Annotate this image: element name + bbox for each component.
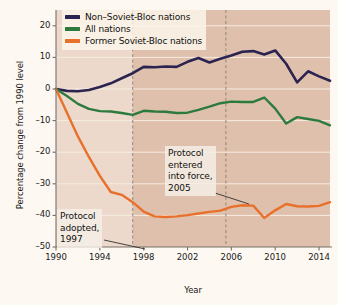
legend: Non–Soviet-Bloc nations All nations Form…	[62, 9, 206, 50]
x-tick-label: 2014	[299, 252, 338, 262]
y-tick-label: –20	[25, 146, 51, 156]
legend-swatch-former-soviet-bloc	[65, 39, 80, 43]
legend-item-non-soviet-bloc[interactable]: Non–Soviet-Bloc nations	[65, 11, 202, 23]
x-tick-label: 2010	[255, 252, 295, 262]
y-tick-label: –30	[25, 178, 51, 188]
legend-label-all-nations: All nations	[85, 24, 131, 34]
y-tick-label: –50	[25, 241, 51, 251]
y-tick-label: –10	[25, 115, 51, 125]
x-axis-title: Year	[56, 285, 330, 295]
x-tick-label: 2006	[211, 252, 251, 262]
legend-label-non-soviet-bloc: Non–Soviet-Bloc nations	[85, 12, 190, 22]
legend-item-former-soviet-bloc[interactable]: Former Soviet-Bloc nations	[65, 35, 202, 47]
y-axis-title: Percentage change from 1990 level	[15, 19, 25, 251]
x-tick-label: 2002	[168, 252, 208, 262]
legend-item-all-nations[interactable]: All nations	[65, 23, 202, 35]
annotation-protocol-adopted: Protocol adopted, 1997	[57, 209, 102, 248]
x-tick-label: 1998	[124, 252, 164, 262]
legend-swatch-non-soviet-bloc	[65, 15, 80, 19]
x-tick-label: 1990	[36, 252, 76, 262]
legend-swatch-all-nations	[65, 27, 80, 31]
y-tick-label: 20	[25, 20, 51, 30]
legend-label-former-soviet-bloc: Former Soviet-Bloc nations	[85, 36, 202, 46]
y-tick-label: 10	[25, 51, 51, 61]
annotation-protocol-entered-into-force: Protocol entered into force, 2005	[165, 146, 216, 196]
y-tick-label: –40	[25, 209, 51, 219]
x-tick-label: 1994	[80, 252, 120, 262]
y-tick-label: 0	[25, 83, 51, 93]
chart-container: Percentage change from 1990 level Year 2…	[0, 0, 338, 305]
